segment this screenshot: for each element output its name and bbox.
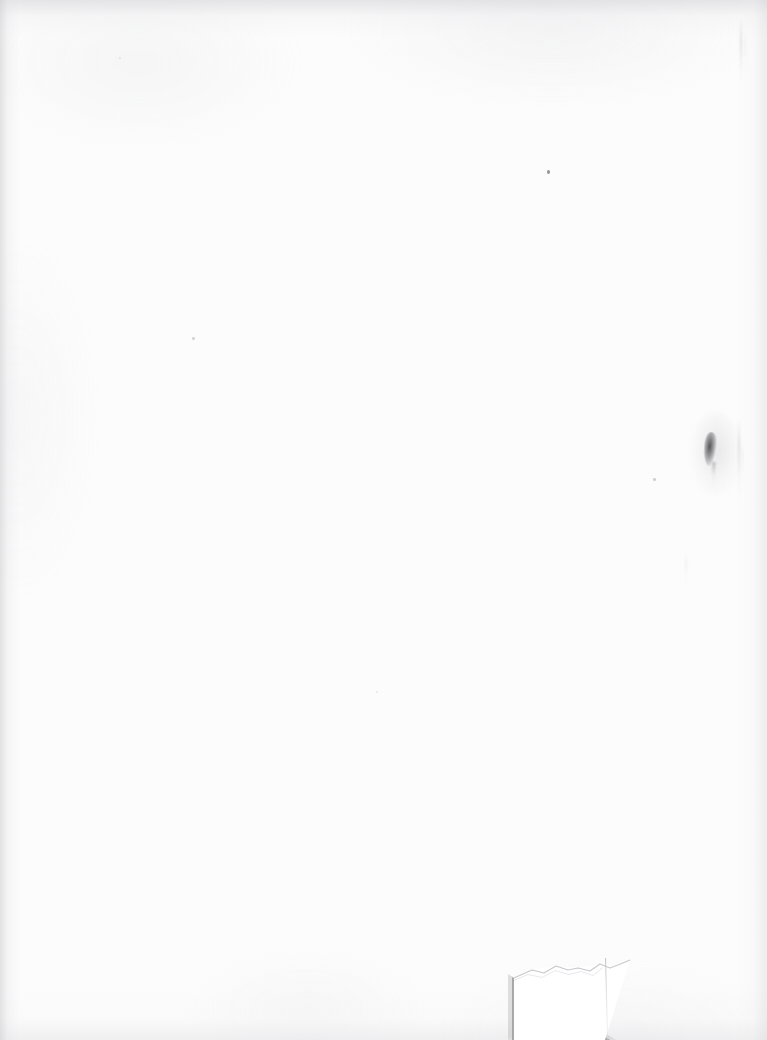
page-edge-shade-left [0,0,26,1040]
scanned-page [0,0,767,1040]
page-edge-shade-top [0,0,767,46]
corner-fold-flap [498,952,767,1040]
ink-smudge-halo [690,412,742,496]
page-edge-shade-right [737,0,767,1040]
paper-grain-texture [0,0,767,1040]
torn-page-corner [498,952,767,1040]
